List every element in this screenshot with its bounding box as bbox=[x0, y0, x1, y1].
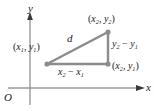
point1-comma: , bbox=[24, 41, 27, 52]
point2-y-sub: 2 bbox=[108, 18, 111, 25]
horiz-x2-sub: 2 bbox=[62, 71, 65, 78]
horiz-x1-base: x bbox=[76, 66, 80, 77]
mixed-close-paren: ) bbox=[135, 60, 138, 71]
point1-label: (x1, y1) bbox=[13, 42, 40, 52]
horiz-minus: − bbox=[68, 66, 74, 77]
vert-minus: − bbox=[122, 38, 128, 49]
vert-y2-sub: 2 bbox=[116, 43, 119, 50]
point1-x-sub: 1 bbox=[21, 46, 24, 53]
point1-y-sub: 1 bbox=[33, 46, 36, 53]
point2-x-sub: 2 bbox=[96, 18, 99, 25]
mixed-y-sub: 1 bbox=[132, 65, 135, 72]
horiz-x1-sub: 1 bbox=[81, 71, 84, 78]
point1-close-paren: ) bbox=[36, 41, 39, 52]
vertical-leg-label: y2 − y1 bbox=[112, 39, 138, 49]
point-mixed-label: (x2, y1) bbox=[112, 61, 139, 71]
mixed-comma: , bbox=[123, 60, 126, 71]
point2-label: (x2, y2) bbox=[88, 14, 115, 24]
x-axis-label: x bbox=[146, 82, 151, 93]
vert-y1-sub: 1 bbox=[135, 43, 138, 50]
point2-close-paren: ) bbox=[111, 13, 114, 24]
distance-label: d bbox=[67, 33, 73, 44]
distance-formula-figure: y x O (x2, y2) (x1, y1) (x2, y1) d y2 − … bbox=[0, 0, 156, 111]
vertex-point1-dot bbox=[44, 61, 49, 66]
y-axis-label: y bbox=[28, 3, 33, 14]
vertex-point-mixed-dot bbox=[105, 61, 110, 66]
mixed-x-sub: 2 bbox=[120, 65, 123, 72]
origin-label: O bbox=[4, 92, 12, 103]
vert-y1-base: y bbox=[130, 38, 134, 49]
point2-comma: , bbox=[99, 13, 102, 24]
coordinate-plane-svg bbox=[0, 0, 156, 111]
vertex-point2-dot bbox=[105, 29, 110, 34]
x-axis-arrowhead bbox=[136, 85, 145, 91]
horizontal-leg-label: x2 − x1 bbox=[58, 67, 84, 77]
hypotenuse-segment bbox=[47, 32, 108, 64]
